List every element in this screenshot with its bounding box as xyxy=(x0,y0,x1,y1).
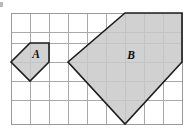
shape-b-label: B xyxy=(126,49,135,61)
shape-a-polygon xyxy=(11,43,49,81)
figure-canvas: A B xyxy=(0,0,190,131)
geometry-figure: A B xyxy=(0,0,190,131)
scan-artifact-speck xyxy=(0,2,3,7)
shape-a-label: A xyxy=(31,48,40,60)
shape-b-polygon xyxy=(68,13,182,124)
